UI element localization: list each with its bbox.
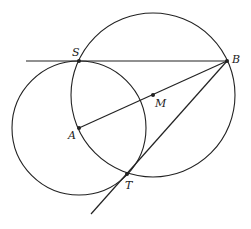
point-A [77, 126, 81, 130]
point-S [77, 59, 81, 63]
point-T [125, 172, 129, 176]
tangent-line-BT [91, 61, 227, 214]
label-B: B [231, 53, 240, 66]
diagram-canvas: S B A M T [0, 0, 251, 229]
label-A: A [67, 129, 76, 142]
label-S: S [72, 46, 80, 59]
label-M: M [154, 97, 167, 110]
geometry-diagram: S B A M T [0, 0, 251, 229]
point-B [225, 59, 229, 63]
label-T: T [125, 179, 134, 192]
